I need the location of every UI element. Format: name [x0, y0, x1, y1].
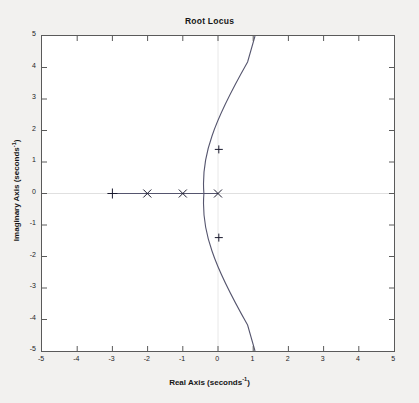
- y-axis-label-exponent: -1: [11, 142, 17, 147]
- y-axis-label-text: Imaginary Axis (seconds: [12, 147, 21, 241]
- x-tick-label-1: -4: [63, 355, 89, 362]
- x-tick-label-7: 2: [275, 355, 301, 362]
- x-tick-label-5: 0: [204, 355, 230, 362]
- y-axis-label: Imaginary Axis (seconds-1): [11, 90, 22, 290]
- locus-upper-branch: [204, 36, 255, 194]
- x-tick-label-3: -2: [134, 355, 160, 362]
- x-tick-label-4: -1: [169, 355, 195, 362]
- x-tick-label-8: 3: [310, 355, 336, 362]
- x-tick-label-0: -5: [28, 355, 54, 362]
- x-axis-label-close: ): [247, 378, 250, 387]
- plot-area[interactable]: [41, 35, 395, 352]
- y-tick-label-1: 4: [12, 62, 36, 69]
- y-tick-label-10: -5: [12, 345, 36, 352]
- x-axis-label-text: Real Axis (seconds: [169, 378, 242, 387]
- gain-marker-lower: [215, 234, 223, 242]
- x-axis-label: Real Axis (seconds-1): [0, 376, 419, 387]
- gain-marker-upper: [215, 145, 223, 153]
- locus-lower-branch: [204, 194, 255, 352]
- x-tick-label-9: 4: [345, 355, 371, 362]
- x-tick-label-6: 1: [239, 355, 265, 362]
- y-tick-label-0: 5: [12, 30, 36, 37]
- page-title: Root Locus: [0, 16, 419, 26]
- zero-marker-minus3: [107, 189, 117, 199]
- root-locus-svg: [42, 36, 394, 351]
- y-tick-label-9: -4: [12, 314, 36, 321]
- x-tick-label-2: -3: [99, 355, 125, 362]
- y-axis-label-close: ): [12, 140, 21, 143]
- figure-canvas: Root Locus: [0, 0, 419, 403]
- x-tick-label-10: 5: [380, 355, 406, 362]
